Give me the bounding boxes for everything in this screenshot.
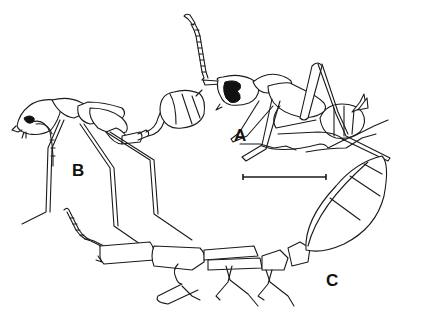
panel-label-a: A [234,126,246,145]
scale-bar [243,174,326,180]
panel-label-b: B [72,161,84,180]
ant-figure: A B [0,0,436,319]
panel-label-c: C [326,271,338,290]
specimen-b-drawing [12,90,205,244]
specimen-a-drawing [184,14,390,161]
